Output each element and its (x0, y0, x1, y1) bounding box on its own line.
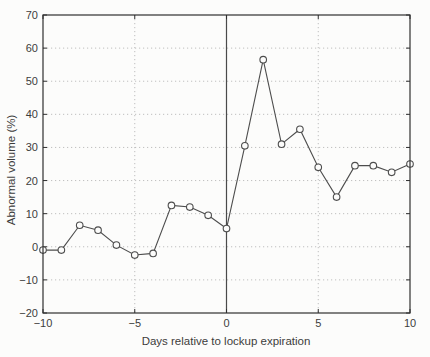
svg-text:0: 0 (32, 241, 38, 253)
svg-text:10: 10 (404, 317, 416, 329)
data-point (260, 56, 267, 63)
svg-text:40: 40 (26, 108, 38, 120)
data-point (278, 141, 285, 148)
data-point (131, 252, 138, 259)
svg-text:50: 50 (26, 75, 38, 87)
x-axis-title: Days relative to lockup expiration (142, 335, 311, 347)
svg-text:60: 60 (26, 42, 38, 54)
data-point (352, 162, 359, 169)
data-point (388, 169, 395, 176)
data-point (187, 204, 194, 211)
svg-text:5: 5 (315, 317, 321, 329)
svg-text:−5: −5 (128, 317, 141, 329)
svg-text:10: 10 (26, 208, 38, 220)
data-point (315, 164, 322, 171)
data-point (205, 212, 212, 219)
data-point (168, 202, 175, 209)
svg-text:−10: −10 (19, 274, 38, 286)
data-point (76, 222, 83, 229)
data-point (113, 242, 120, 249)
data-point (95, 227, 102, 234)
svg-text:−20: −20 (19, 307, 38, 319)
data-point (297, 126, 304, 133)
svg-text:20: 20 (26, 175, 38, 187)
svg-text:30: 30 (26, 141, 38, 153)
data-point (150, 250, 157, 257)
chart-canvas: −10−50510−20−10010203040506070 Days rela… (0, 0, 430, 357)
data-point (223, 225, 230, 232)
data-point (333, 194, 340, 201)
data-point (242, 142, 249, 149)
y-axis-title: Abnormal volume (%) (5, 115, 17, 226)
svg-text:0: 0 (223, 317, 229, 329)
data-point (58, 247, 65, 254)
data-point (370, 162, 377, 169)
svg-text:70: 70 (26, 9, 38, 21)
chart: −10−50510−20−10010203040506070 Days rela… (0, 0, 430, 357)
